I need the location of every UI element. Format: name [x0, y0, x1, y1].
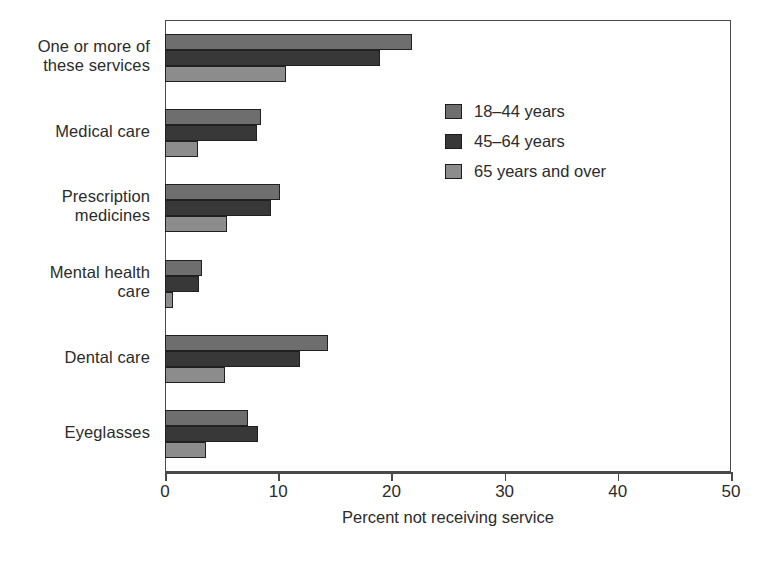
bar	[165, 109, 261, 125]
bar	[165, 125, 257, 141]
legend-item: 45–64 years	[445, 126, 695, 156]
bar	[165, 351, 300, 367]
bar	[165, 141, 198, 157]
x-tick	[505, 472, 507, 481]
x-axis-line	[165, 472, 731, 474]
category-axis-labels: One or more ofthese servicesMedical care…	[0, 20, 158, 472]
bar	[165, 426, 258, 442]
legend-swatch-icon	[445, 164, 462, 179]
bars-layer	[165, 20, 731, 472]
category-label: Medical care	[0, 122, 150, 141]
x-tick-label: 30	[475, 482, 535, 502]
bar	[165, 200, 271, 216]
legend: 18–44 years45–64 years65 years and over	[445, 96, 695, 186]
legend-item: 65 years and over	[445, 156, 695, 186]
bar	[165, 292, 173, 308]
legend-label: 45–64 years	[474, 132, 565, 151]
category-label: Dental care	[0, 348, 150, 367]
x-tick	[731, 472, 733, 481]
bar	[165, 50, 380, 66]
bar	[165, 260, 202, 276]
bar-group	[165, 260, 731, 308]
legend-item: 18–44 years	[445, 96, 695, 126]
bar	[165, 66, 286, 82]
bar-group	[165, 410, 731, 458]
x-axis-title: Percent not receiving service	[165, 508, 731, 527]
x-tick-label: 20	[361, 482, 421, 502]
bar	[165, 276, 199, 292]
category-label: Eyeglasses	[0, 423, 150, 442]
x-tick-label: 0	[135, 482, 195, 502]
bar-group	[165, 34, 731, 82]
legend-label: 18–44 years	[474, 102, 565, 121]
category-label: Prescription	[0, 187, 150, 206]
bar	[165, 442, 206, 458]
category-label: these services	[0, 56, 150, 75]
category-label: care	[0, 282, 150, 301]
x-tick-label: 40	[588, 482, 648, 502]
bar-group	[165, 335, 731, 383]
bar	[165, 410, 248, 426]
x-tick	[391, 472, 393, 481]
category-label: medicines	[0, 206, 150, 225]
legend-label: 65 years and over	[474, 162, 606, 181]
legend-swatch-icon	[445, 104, 462, 119]
x-tick	[165, 472, 167, 481]
category-label: Mental health	[0, 263, 150, 282]
x-tick	[278, 472, 280, 481]
x-tick	[618, 472, 620, 481]
legend-swatch-icon	[445, 134, 462, 149]
bar	[165, 367, 225, 383]
bar	[165, 184, 280, 200]
bar-group	[165, 184, 731, 232]
bar	[165, 216, 227, 232]
bar	[165, 335, 328, 351]
bar	[165, 34, 412, 50]
category-label: One or more of	[0, 37, 150, 56]
bar-chart: One or more ofthese servicesMedical care…	[0, 0, 757, 561]
x-tick-label: 10	[248, 482, 308, 502]
x-tick-label: 50	[701, 482, 757, 502]
